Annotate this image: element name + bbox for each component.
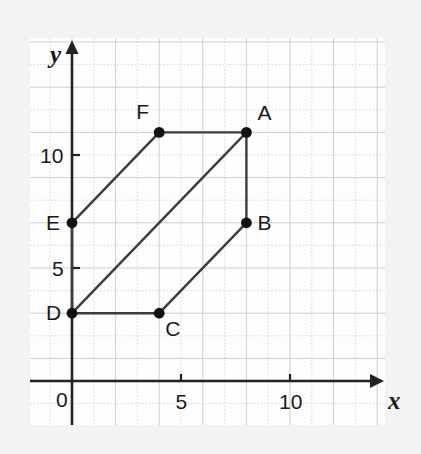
vertex-point-d [67, 308, 78, 319]
hexagon-figure [30, 38, 385, 425]
vertex-point-a [241, 127, 252, 138]
vertex-point-b [241, 217, 252, 228]
x-axis-name-label: x [388, 388, 401, 413]
vertex-point-c [154, 308, 165, 319]
point-label-d: D [46, 302, 61, 323]
vertex-point-e [67, 217, 78, 228]
segment-da [72, 132, 246, 313]
segment-ef [72, 132, 159, 222]
point-label-c: C [165, 318, 180, 339]
x-axis-tick-label-5: 5 [176, 391, 188, 412]
x-axis-tick-label-0: 0 [56, 389, 68, 410]
segment-bc [159, 223, 246, 313]
point-label-e: E [46, 212, 60, 233]
x-axis-tick-label-10: 10 [279, 391, 302, 412]
point-label-f: F [136, 101, 149, 122]
vertex-point-f [154, 127, 165, 138]
coordinate-plane-panel: 0510510yxABCDEF [30, 38, 385, 425]
diagram-canvas: 0510510yxABCDEF [0, 0, 421, 454]
y-axis-tick-label-5: 5 [52, 258, 64, 279]
point-label-b: B [257, 212, 271, 233]
point-label-a: A [257, 102, 271, 123]
y-axis-name-label: y [50, 42, 61, 67]
y-axis-tick-label-10: 10 [40, 145, 63, 166]
